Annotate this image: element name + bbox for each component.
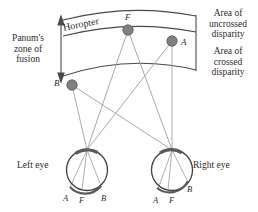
horopter-diagram: Panum's zone of fusion Horopter Area of … — [0, 0, 258, 212]
right-retina-label-f: F — [169, 196, 174, 206]
uncrossed-disparity-label: Area of uncrossed disparity — [200, 8, 256, 40]
right-eye-label: Right eye — [193, 160, 253, 171]
right-retina-label-b: B — [187, 185, 192, 195]
point-A-marker — [167, 36, 177, 46]
point-A-label: A — [181, 37, 187, 47]
point-F-marker — [123, 25, 133, 35]
arc-outer-bottom — [63, 63, 196, 76]
projection-rays — [72, 30, 172, 150]
ray-F-right — [128, 30, 172, 150]
left-eye-globe — [67, 150, 108, 194]
ray-B-left — [72, 85, 87, 150]
point-B-marker — [67, 80, 77, 90]
ray-B-right — [72, 85, 172, 150]
left-retina-label-f: F — [79, 196, 84, 206]
crossed-disparity-label: Area of crossed disparity — [200, 46, 256, 78]
point-F-label: F — [125, 12, 131, 22]
panum-zone-label: Panum's zone of fusion — [2, 33, 54, 65]
right-retina-label-a: A — [153, 196, 158, 206]
ray-A-left — [87, 41, 172, 150]
point-B-label: B — [54, 78, 60, 88]
left-eye-internal-rays — [70, 150, 101, 189]
left-eye-label: Left eye — [17, 160, 73, 171]
right-eye-internal-rays — [158, 150, 187, 190]
left-retina-label-a: A — [63, 194, 68, 204]
ray-F-left — [87, 30, 128, 150]
left-retina-label-b: B — [101, 194, 106, 204]
